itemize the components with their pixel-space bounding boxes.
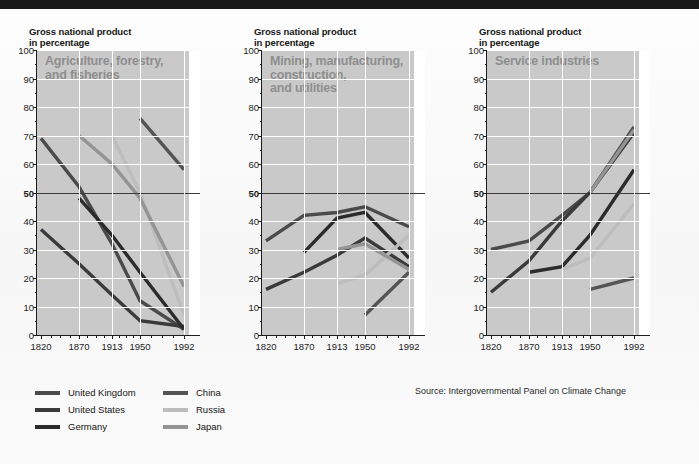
gridline-v-1913	[562, 50, 563, 335]
y-tick-minor-55	[260, 178, 263, 179]
x-tick-minor	[510, 335, 511, 338]
x-tick-minor	[601, 335, 602, 338]
y-tick-label-0: 0	[239, 330, 259, 341]
y-tick-minor-5	[35, 321, 38, 322]
series-line-japan	[590, 130, 634, 193]
gridline-h-60	[262, 164, 414, 165]
gridline-h-80	[487, 107, 639, 108]
x-tick-minor	[554, 335, 555, 338]
y-tick-label-70: 70	[239, 130, 259, 141]
chart-panel-agriculture: Gross national product in percentage 010…	[14, 27, 222, 350]
legend-label: Japan	[196, 420, 222, 434]
y-tick-minor-25	[260, 264, 263, 265]
gridline-h-90	[487, 79, 639, 80]
x-tick-1820	[491, 335, 492, 339]
y-tick-label-30: 30	[239, 244, 259, 255]
legend-swatch-icon	[163, 408, 188, 412]
gridline-h-70	[487, 136, 639, 137]
gridline-h-10	[487, 307, 639, 308]
gridline-h-100	[37, 50, 189, 51]
y-axis-labels-2: 0102030405060708090100	[464, 50, 484, 335]
y-tick-label-60: 60	[14, 159, 34, 170]
y-tick-label-40: 40	[239, 216, 259, 227]
y-tick-minor-55	[35, 178, 38, 179]
x-tick-minor	[351, 335, 352, 338]
x-tick-1992	[634, 335, 635, 339]
x-tick-minor	[173, 335, 174, 338]
x-tick-label-1992: 1992	[623, 341, 644, 352]
x-tick-minor	[126, 335, 127, 338]
y-tick-minor-85	[260, 93, 263, 94]
plot-wrapper-0: 0102030405060708090100 Agriculture, fore…	[14, 50, 222, 350]
chart-sheet: Gross national product in percentage 010…	[0, 9, 699, 464]
y-tick-label-30: 30	[14, 244, 34, 255]
y-tick-minor-75	[260, 121, 263, 122]
x-tick-1913	[337, 335, 338, 339]
x-tick-label-1950: 1950	[354, 341, 375, 352]
y-tick-label-10: 10	[464, 301, 484, 312]
x-tick-minor	[537, 335, 538, 338]
y-tick-minor-15	[35, 292, 38, 293]
legend-label: United States	[68, 403, 125, 417]
y-tick-minor-75	[35, 121, 38, 122]
gridline-h-60	[37, 164, 189, 165]
gridline-h-30	[37, 250, 189, 251]
gridline-h-70	[37, 136, 189, 137]
x-tick-minor	[583, 335, 584, 338]
x-tick-minor	[70, 335, 71, 338]
y-tick-minor-55	[485, 178, 488, 179]
source-note: Source: Intergovernmental Panel on Clima…	[415, 386, 626, 396]
y-tick-minor-5	[260, 321, 263, 322]
x-tick-label-1820: 1820	[255, 341, 276, 352]
x-tick-minor	[276, 335, 277, 338]
x-tick-minor	[569, 335, 570, 338]
x-tick-label-1913: 1913	[101, 341, 122, 352]
x-tick-1870	[304, 335, 305, 339]
y-tick-label-40: 40	[464, 216, 484, 227]
x-tick-1950	[590, 335, 591, 339]
y-tick-minor-25	[35, 264, 38, 265]
series-line-russia	[112, 136, 184, 316]
x-axis-labels-2: 18201870191319501992	[487, 341, 650, 355]
gridline-h-20	[487, 278, 639, 279]
gridline-h-20	[262, 278, 414, 279]
y-tick-label-20: 20	[239, 273, 259, 284]
x-tick-minor	[501, 335, 502, 338]
x-tick-label-1950: 1950	[579, 341, 600, 352]
x-tick-minor	[285, 335, 286, 338]
y-tick-label-50: 50	[464, 187, 484, 198]
y-tick-label-100: 100	[239, 45, 259, 56]
y-tick-label-80: 80	[464, 102, 484, 113]
gridline-h-80	[37, 107, 189, 108]
gridline-h-100	[262, 50, 414, 51]
y-axis-labels-0: 0102030405060708090100	[14, 50, 34, 335]
x-tick-label-1950: 1950	[129, 341, 150, 352]
x-tick-1913	[112, 335, 113, 339]
gridline-h-80	[262, 107, 414, 108]
y-tick-minor-15	[485, 292, 488, 293]
series-line-russia	[562, 204, 634, 270]
y-tick-minor-65	[35, 150, 38, 151]
plot-area-1: Mining, manufacturing, construction, and…	[262, 50, 425, 335]
x-axis-labels-1: 18201870191319501992	[262, 341, 425, 355]
plot-wrapper-2: 0102030405060708090100 Service industrie…	[464, 50, 672, 350]
y-tick-minor-45	[35, 207, 38, 208]
x-tick-1820	[41, 335, 42, 339]
gridline-v-1870	[79, 50, 80, 335]
x-tick-minor	[119, 335, 120, 338]
x-tick-1870	[79, 335, 80, 339]
y-tick-label-50: 50	[14, 187, 34, 198]
gridline-v-1950	[140, 50, 141, 335]
legend-swatch-icon	[163, 391, 188, 395]
series-line-germany	[79, 198, 184, 329]
y-tick-minor-15	[260, 292, 263, 293]
y-tick-minor-95	[485, 64, 488, 65]
x-tick-minor	[60, 335, 61, 338]
x-tick-1870	[529, 335, 530, 339]
y-tick-minor-35	[35, 235, 38, 236]
y-tick-minor-45	[260, 207, 263, 208]
plot-area-0: Agriculture, forestry, and fisheries	[37, 50, 200, 335]
y-tick-minor-45	[485, 207, 488, 208]
gridline-h-30	[487, 250, 639, 251]
x-tick-minor	[398, 335, 399, 338]
